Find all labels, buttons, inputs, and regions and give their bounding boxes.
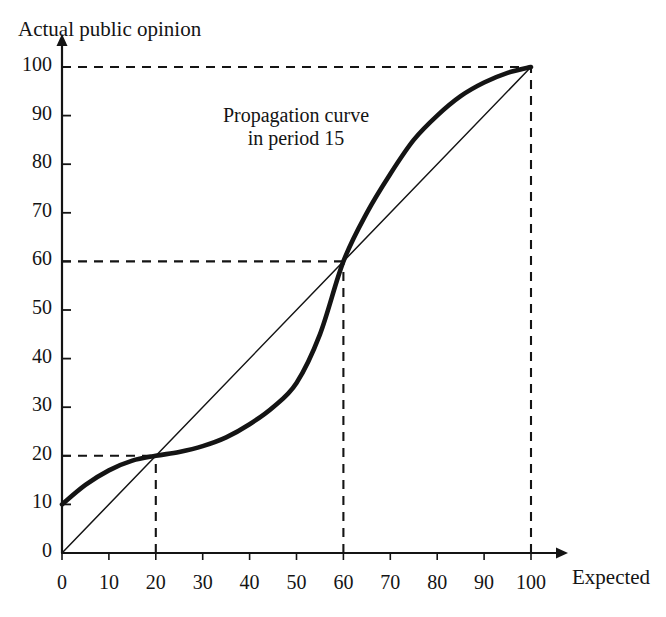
y-tick-label-40: 40 bbox=[32, 345, 52, 368]
propagation-curve-figure: Actual public opinion Propagation curve … bbox=[0, 0, 666, 617]
y-tick-label-0: 0 bbox=[42, 539, 52, 562]
x-axis-arrowhead bbox=[556, 548, 568, 559]
curve-annotation: Propagation curve in period 15 bbox=[196, 104, 396, 150]
y-tick-label-10: 10 bbox=[32, 490, 52, 513]
y-tick-label-20: 20 bbox=[32, 442, 52, 465]
curve-annotation-line-1: Propagation curve bbox=[196, 104, 396, 127]
y-tick-label-90: 90 bbox=[32, 102, 52, 125]
y-tick-label-50: 50 bbox=[32, 296, 52, 319]
x-tick-label-100: 100 bbox=[501, 571, 561, 594]
y-tick-label-70: 70 bbox=[32, 199, 52, 222]
plot-canvas bbox=[0, 0, 666, 617]
x-axis-title-line-1: Expected bbox=[572, 566, 650, 590]
y-axis-title: Actual public opinion bbox=[18, 18, 201, 42]
y-tick-label-100: 100 bbox=[22, 53, 52, 76]
y-tick-label-80: 80 bbox=[32, 150, 52, 173]
curve-annotation-line-2: in period 15 bbox=[196, 127, 396, 150]
x-axis-title: Expected public opinion bbox=[572, 519, 650, 617]
y-tick-label-60: 60 bbox=[32, 247, 52, 270]
y-tick-label-30: 30 bbox=[32, 393, 52, 416]
